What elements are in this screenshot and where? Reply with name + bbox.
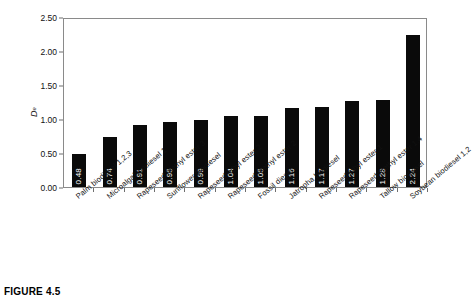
y-axis-tick-label: 1.50	[25, 81, 57, 91]
y-axis-tick-label: 2.50	[25, 13, 57, 23]
y-axis-title: De	[24, 92, 44, 132]
bar-value-label: 0.48	[75, 168, 83, 184]
y-axis-tick-label: 0.50	[25, 149, 57, 159]
bar: 0.48	[72, 154, 86, 187]
y-axis-title-subscript: e	[31, 107, 37, 110]
y-axis-tick-label: 1.00	[25, 115, 57, 125]
figure-caption: FIGURE 4.5	[4, 286, 60, 297]
y-axis-tick-label: 0.00	[25, 183, 57, 193]
y-axis-tick-label: 2.00	[25, 47, 57, 57]
